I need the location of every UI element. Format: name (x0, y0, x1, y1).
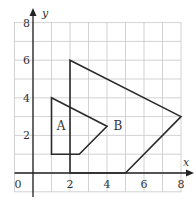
y-tick-2: 2 (23, 129, 30, 142)
x-tick-labels: 0 2 4 6 8 (15, 178, 185, 191)
x-tick-8: 8 (178, 178, 185, 191)
axes (15, 8, 195, 197)
y-tick-8: 8 (23, 17, 30, 30)
x-tick-6: 6 (141, 178, 148, 191)
x-axis-arrow-icon (186, 170, 194, 177)
shape-a-label: A (56, 119, 66, 133)
coordinate-diagram: 0 2 4 6 8 2 4 6 8 x y A B (0, 0, 196, 202)
origin-label: 0 (15, 178, 22, 191)
shape-b-label: B (114, 119, 123, 133)
x-tick-2: 2 (67, 178, 74, 191)
y-tick-labels: 2 4 6 8 (23, 17, 30, 142)
x-axis-label: x (183, 156, 190, 169)
y-tick-6: 6 (23, 54, 30, 67)
grid (15, 22, 182, 192)
y-tick-4: 4 (23, 92, 30, 105)
y-axis-label: y (41, 7, 49, 20)
x-tick-4: 4 (104, 178, 111, 191)
y-axis-arrow-icon (30, 8, 37, 16)
